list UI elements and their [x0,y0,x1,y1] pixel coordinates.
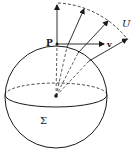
field-vectors [57,5,127,61]
radial-dashed-lines [56,44,89,96]
region-U-arc [58,3,128,40]
label-P: P [46,38,53,48]
point-P-dot [56,43,59,46]
label-v: v [106,39,112,49]
label-U: U [122,18,131,29]
sphere-diagram: P v U Σ [0,0,137,154]
label-Sigma: Σ [40,115,47,126]
